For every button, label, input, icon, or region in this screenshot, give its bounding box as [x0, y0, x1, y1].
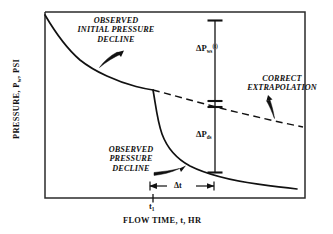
annotation-correct-extrapolation-line2: EXTRAPOLATION — [240, 83, 324, 92]
leader-initial-decline — [100, 51, 125, 68]
x-tick-label-t1: t1 — [149, 202, 155, 212]
curve-correct-extrapolation — [153, 90, 303, 127]
leader-correct-extrapolation — [267, 95, 275, 119]
delta-p-ds-subscript: ds — [207, 134, 212, 140]
annotation-observed-decline-line1: OBSERVED — [100, 145, 162, 154]
annotation-correct-extrapolation-line1: CORRECT — [240, 74, 324, 83]
annotation-initial-decline-line2: INITIAL PRESSURE — [67, 25, 165, 34]
curve-observed-decline — [153, 90, 297, 189]
y-axis-title-subscript: w — [15, 78, 21, 82]
y-axis-title-wrap: PRESSURE, Pw, PSI — [8, 24, 24, 174]
label-delta-t: Δt — [174, 181, 182, 190]
annotation-correct-extrapolation: CORRECT EXTRAPOLATION — [240, 74, 324, 93]
annotation-observed-decline-line3: DECLINE — [100, 164, 162, 173]
annotation-observed-decline-line2: PRESSURE — [100, 154, 162, 163]
label-delta-p-ws: ΔPws(t) — [196, 44, 217, 54]
plot-canvas — [0, 0, 333, 234]
annotation-initial-decline-line3: DECLINE — [67, 35, 165, 44]
delta-p-ws-subscript: ws — [207, 48, 213, 54]
y-axis-title-suffix: , PSI — [12, 59, 21, 78]
delta-p-ws-symbol: ΔP — [196, 43, 207, 53]
annotation-initial-decline: OBSERVED INITIAL PRESSURE DECLINE — [67, 16, 165, 44]
label-delta-p-ds: ΔPds — [196, 130, 211, 140]
annotation-initial-decline-line1: OBSERVED — [67, 16, 165, 25]
measurement-delta-t — [150, 182, 214, 191]
pressure-decline-figure: PRESSURE, Pw, PSI FLOW TIME, t, HR t1 OB… — [0, 0, 333, 234]
x-axis-title: FLOW TIME, t, HR — [123, 216, 201, 226]
y-axis-title: PRESSURE, Pw, PSI — [12, 59, 21, 139]
t1-subscript: 1 — [152, 206, 155, 212]
y-axis-title-prefix: PRESSURE, P — [12, 82, 21, 139]
delta-p-ds-symbol: ΔP — [196, 129, 207, 139]
annotation-observed-decline: OBSERVED PRESSURE DECLINE — [100, 145, 162, 173]
delta-p-ws-superscript: (t) — [213, 43, 218, 49]
